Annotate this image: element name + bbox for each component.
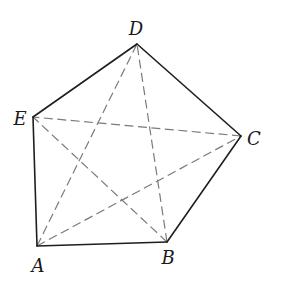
edges [33,44,241,246]
edge-ea [33,117,37,246]
diagonal-ac [37,136,241,246]
vertex-label-e: E [12,108,26,129]
edge-ab [37,242,167,246]
vertex-label-b: B [160,247,174,268]
diagonal-ce [33,117,241,136]
edge-de [33,44,137,117]
pentagon-diagram: A B C D E [0,0,282,293]
vertex-label-a: A [30,255,45,276]
diagonal-bd [137,44,167,242]
vertex-labels: A B C D E [12,18,261,276]
vertex-label-c: C [247,128,261,149]
edge-bc [167,136,241,242]
diagonal-ad [37,44,137,246]
edge-cd [137,44,241,136]
diagonals [33,44,241,246]
vertex-label-d: D [128,18,144,39]
diagonal-be [33,117,167,242]
